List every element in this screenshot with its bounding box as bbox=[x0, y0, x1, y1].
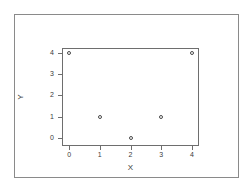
data-point bbox=[190, 51, 194, 55]
data-point bbox=[98, 115, 102, 119]
figure: 01234 01234 X Y bbox=[0, 0, 252, 192]
y-tick-mark bbox=[58, 117, 62, 118]
plot-area bbox=[62, 48, 199, 146]
y-tick-mark bbox=[58, 95, 62, 96]
y-tick-label: 0 bbox=[36, 134, 54, 142]
data-point bbox=[67, 51, 71, 55]
data-point bbox=[159, 115, 163, 119]
x-tick-mark bbox=[100, 146, 101, 150]
x-axis-label: X bbox=[62, 163, 199, 172]
x-tick-mark bbox=[161, 146, 162, 150]
y-tick-mark bbox=[58, 138, 62, 139]
data-surface bbox=[63, 49, 198, 145]
x-tick-label: 3 bbox=[151, 151, 171, 159]
x-tick-label: 4 bbox=[182, 151, 202, 159]
y-tick-mark bbox=[58, 53, 62, 54]
y-tick-mark bbox=[58, 74, 62, 75]
x-tick-mark bbox=[131, 146, 132, 150]
y-tick-label: 2 bbox=[36, 91, 54, 99]
x-tick-mark bbox=[192, 146, 193, 150]
x-tick-label: 0 bbox=[59, 151, 79, 159]
y-tick-label: 1 bbox=[36, 113, 54, 121]
x-tick-label: 1 bbox=[90, 151, 110, 159]
x-tick-label: 2 bbox=[121, 151, 141, 159]
y-tick-label: 4 bbox=[36, 49, 54, 57]
data-point bbox=[129, 136, 133, 140]
y-axis-label: Y bbox=[16, 87, 26, 107]
x-tick-mark bbox=[69, 146, 70, 150]
y-tick-label: 3 bbox=[36, 70, 54, 78]
